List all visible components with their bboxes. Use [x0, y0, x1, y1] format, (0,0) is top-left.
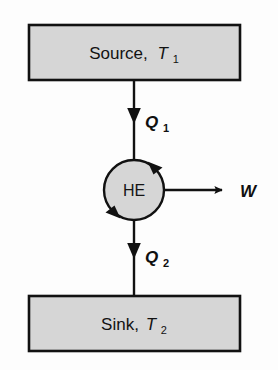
- source-label-subscript: 1: [173, 53, 179, 65]
- heat-engine-node: HE: [104, 160, 164, 220]
- sink-box-label: Sink, T 2: [101, 315, 167, 336]
- source-box: Source, T 1: [29, 25, 240, 80]
- sink-box: Sink, T 2: [29, 296, 240, 351]
- heat-out-arrow-group: Q 2: [127, 220, 169, 296]
- heat-in-label: Q 1: [145, 113, 169, 134]
- heat-engine-label: HE: [123, 182, 145, 199]
- source-label-text: Source,: [89, 44, 148, 63]
- heat-out-label: Q 2: [145, 248, 169, 269]
- heat-in-subscript: 1: [163, 122, 169, 134]
- work-label: W: [240, 182, 258, 201]
- heat-out-symbol: Q: [145, 248, 158, 267]
- heat-out-subscript: 2: [163, 257, 169, 269]
- source-label-symbol: T: [158, 44, 170, 63]
- sink-label-subscript: 2: [161, 324, 167, 336]
- heat-out-arrowhead: [127, 243, 141, 259]
- heat-in-symbol: Q: [145, 113, 158, 132]
- diagram-canvas: Source, T 1 Q 1 HE W: [0, 0, 278, 370]
- sink-label-text: Sink,: [101, 315, 139, 334]
- heat-engine-diagram: Source, T 1 Q 1 HE W: [0, 0, 278, 370]
- heat-in-arrowhead: [127, 108, 141, 124]
- sink-label-symbol: T: [146, 315, 158, 334]
- work-arrow-group: W: [164, 182, 258, 201]
- heat-in-arrow-group: Q 1: [127, 80, 169, 160]
- source-box-label: Source, T 1: [89, 44, 179, 65]
